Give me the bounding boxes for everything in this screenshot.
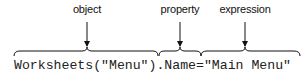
code-statement: Worksheets("Menu").Name="Main Menu" (14, 58, 291, 73)
expression-arrowhead-icon (242, 41, 248, 47)
expression-brace (201, 47, 300, 56)
object-brace (14, 47, 158, 56)
object-arrowhead-icon (84, 41, 90, 47)
property-arrowhead-icon (177, 41, 183, 47)
property-brace (159, 47, 201, 56)
